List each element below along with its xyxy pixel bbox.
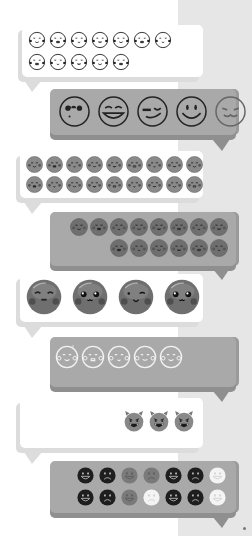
emoji-row (26, 279, 200, 315)
gray-kawaii-face-icon (106, 156, 123, 173)
dark-kawaii-face-icon (150, 239, 168, 257)
light-happy-face-icon (209, 467, 226, 484)
winking-tongue-face-icon (136, 95, 169, 128)
gray-kawaii-face-icon (66, 176, 83, 193)
kawaii-outline-face-icon (154, 31, 172, 49)
light-happy-face-icon (209, 489, 226, 506)
emoji-row (26, 156, 203, 173)
light-sad-face-icon (143, 489, 160, 506)
mid-sad-face-icon (143, 467, 160, 484)
devil-face-icon (148, 410, 170, 432)
white-outline-kawaii-face-icon (107, 345, 131, 369)
bubble-tail (24, 326, 42, 338)
gray-kawaii-face-icon (126, 176, 143, 193)
dark-kawaii-face-icon (170, 218, 188, 236)
corner-dot (243, 527, 246, 530)
gray-kawaii-face-icon (146, 156, 163, 173)
bubble-tail (212, 390, 230, 402)
dark-kawaii-face-icon (170, 239, 188, 257)
laughing-face-icon (97, 95, 130, 128)
gray-kawaii-face-icon (166, 176, 183, 193)
squinting-face-icon (214, 95, 247, 128)
gray-kawaii-face-icon (26, 156, 43, 173)
kawaii-outline-face-icon (133, 31, 151, 49)
content-glossy-face-icon (26, 279, 62, 315)
chat-bubble-gray-faces (20, 151, 203, 198)
emoji-row (110, 239, 228, 257)
dark-happy-face-icon (165, 467, 182, 484)
gray-kawaii-face-icon (166, 156, 183, 173)
emoji-row (123, 410, 195, 432)
white-outline-kawaii-face-icon (81, 345, 105, 369)
gray-kawaii-face-icon (66, 156, 83, 173)
dark-kawaii-face-icon (210, 239, 228, 257)
mid-happy-face-icon (121, 467, 138, 484)
bubble-tail (24, 452, 42, 464)
sparkle-eyes-glossy-face-icon (72, 279, 108, 315)
sparkle-eyes-glossy-face-icon (164, 279, 200, 315)
heart-eyes-face-icon (58, 95, 91, 128)
chat-bubble-white-outline-faces (50, 337, 236, 387)
emoji-row (70, 218, 228, 236)
gray-kawaii-face-icon (186, 176, 203, 193)
gray-kawaii-face-icon (106, 176, 123, 193)
dark-kawaii-face-icon (190, 239, 208, 257)
kawaii-outline-face-icon (91, 53, 109, 71)
dark-kawaii-face-icon (150, 218, 168, 236)
gray-kawaii-face-icon (46, 176, 63, 193)
chat-bubble-dark-faces (50, 212, 236, 266)
emoji-row (77, 489, 226, 506)
dark-kawaii-face-icon (70, 218, 88, 236)
gray-kawaii-face-icon (146, 176, 163, 193)
gray-kawaii-face-icon (186, 156, 203, 173)
bubble-tail (212, 516, 230, 528)
dark-kawaii-face-icon (110, 239, 128, 257)
emoji-row (77, 467, 226, 484)
bubble-tail (24, 80, 42, 92)
devil-face-icon (173, 410, 195, 432)
chat-bubble-large-outline-faces (50, 89, 236, 135)
dark-kawaii-face-icon (210, 218, 228, 236)
kawaii-outline-face-icon (28, 31, 46, 49)
dark-kawaii-face-icon (130, 239, 148, 257)
white-outline-kawaii-face-icon (55, 345, 79, 369)
dark-sad-face-icon (99, 489, 116, 506)
kawaii-outline-face-icon (28, 53, 46, 71)
dark-kawaii-face-icon (110, 218, 128, 236)
kawaii-outline-face-icon (49, 53, 67, 71)
chat-bubble-flat-faces (50, 461, 236, 513)
bubble-tail (212, 268, 230, 280)
emoji-row (28, 31, 172, 49)
gray-kawaii-face-icon (126, 156, 143, 173)
smiling-face-icon (175, 95, 208, 128)
dark-sad-face-icon (187, 489, 204, 506)
chat-bubble-devil-faces (20, 398, 203, 448)
white-outline-kawaii-face-icon (159, 345, 183, 369)
emoji-row (26, 176, 203, 193)
emoji-row (28, 53, 130, 71)
devil-face-icon (123, 410, 145, 432)
gray-kawaii-face-icon (86, 176, 103, 193)
kawaii-outline-face-icon (112, 53, 130, 71)
dark-happy-face-icon (77, 467, 94, 484)
bubble-tail (212, 139, 230, 151)
dark-sad-face-icon (187, 467, 204, 484)
gray-kawaii-face-icon (86, 156, 103, 173)
gray-kawaii-face-icon (46, 156, 63, 173)
emoji-row (58, 95, 247, 128)
gray-kawaii-face-icon (26, 176, 43, 193)
dark-sad-face-icon (99, 467, 116, 484)
emoji-row (55, 345, 183, 369)
dark-happy-face-icon (77, 489, 94, 506)
dark-kawaii-face-icon (190, 218, 208, 236)
kawaii-outline-face-icon (49, 31, 67, 49)
dark-kawaii-face-icon (90, 218, 108, 236)
kawaii-outline-face-icon (112, 31, 130, 49)
wink-glossy-face-icon (118, 279, 154, 315)
bubble-tail (24, 202, 42, 214)
mid-happy-face-icon (121, 489, 138, 506)
chat-bubble-outline-faces (22, 25, 203, 77)
dark-happy-face-icon (165, 489, 182, 506)
kawaii-outline-face-icon (70, 53, 88, 71)
chat-bubble-glossy-faces (20, 274, 203, 322)
